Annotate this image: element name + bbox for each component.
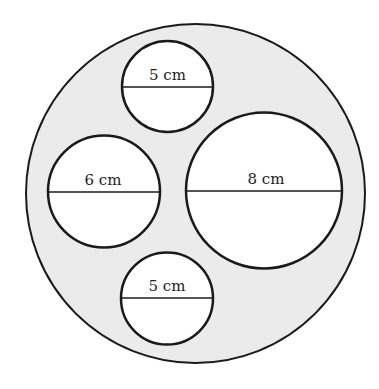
left-circle: 6 cm (48, 136, 160, 248)
diameter-label: 6 cm (85, 171, 122, 189)
diameter-label: 5 cm (149, 277, 186, 295)
diameter-label: 5 cm (149, 66, 186, 84)
right-large-circle: 8 cm (186, 113, 342, 269)
circles-diagram: 5 cm 6 cm 8 cm 5 cm (0, 0, 379, 389)
bottom-small-circle: 5 cm (121, 253, 213, 345)
top-small-circle: 5 cm (122, 41, 213, 132)
diameter-label: 8 cm (248, 170, 285, 188)
